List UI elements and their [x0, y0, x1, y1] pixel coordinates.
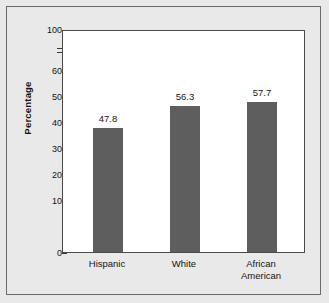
bar-value-african-american: 57.7 [231, 87, 293, 98]
bar-white[interactable] [170, 106, 200, 252]
x-label-african-american: African American [219, 258, 303, 281]
y-tick-label-30: 30 [16, 144, 62, 154]
y-tick-label-100: 100 [16, 25, 62, 35]
bar-group-african-american: 57.7 [231, 31, 293, 252]
y-tick-label-50: 50 [16, 92, 62, 102]
bar-value-hispanic: 47.8 [77, 113, 139, 124]
y-axis-ticks: 100 60 50 40 30 20 10 0 [8, 0, 62, 303]
x-label-african-american-line2: American [241, 270, 281, 281]
y-tick-label-10: 10 [16, 196, 62, 206]
y-tick-label-0: 0 [16, 248, 62, 258]
x-axis-labels: Hispanic White African American [62, 258, 305, 298]
bar-african-american[interactable] [247, 102, 277, 252]
x-label-hispanic: Hispanic [65, 258, 149, 270]
y-tick-mark-0 [62, 253, 67, 254]
x-label-african-american-line1: African [246, 258, 276, 269]
y-tick-label-60: 60 [16, 66, 62, 76]
bar-value-white: 56.3 [154, 91, 216, 102]
bar-group-hispanic: 47.8 [77, 31, 139, 252]
chart-figure: Percentage 100 60 50 40 30 20 10 0 47.8 … [0, 0, 329, 303]
y-tick-label-20: 20 [16, 170, 62, 180]
x-label-white: White [142, 258, 226, 270]
y-tick-label-40: 40 [16, 118, 62, 128]
bar-group-white: 56.3 [154, 31, 216, 252]
bar-hispanic[interactable] [93, 128, 123, 252]
plot-area: 47.8 56.3 57.7 [62, 30, 305, 253]
